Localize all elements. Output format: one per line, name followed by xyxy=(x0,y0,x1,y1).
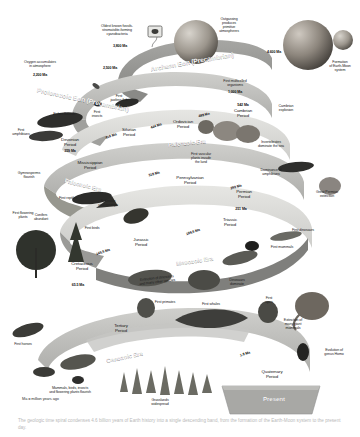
event-mammals-birds-insects: Mammals, birds, insects and flowering pl… xyxy=(30,386,110,394)
period-pennsylvanian: Pennsylvanian Period xyxy=(168,176,212,186)
period-devonian: Devonian Period xyxy=(54,138,86,148)
event-first-birds: First birds xyxy=(78,226,106,230)
period-triassic: Triassic Period xyxy=(212,218,248,228)
first-mammal-silhouette xyxy=(245,241,259,251)
event-first-vascular-plants: First vascular plants invade the land xyxy=(180,152,222,164)
present-label: Present xyxy=(244,396,304,403)
event-first-mammals: First mammals xyxy=(264,245,300,249)
period-permian: Permian Period xyxy=(226,190,262,200)
event-outgassing: Outgassing produces primitive atmosphere… xyxy=(210,17,248,33)
bird-silhouette xyxy=(59,351,97,372)
event-first-horses: First horses xyxy=(6,342,40,346)
event-first-jawless-fish: First jawless fish xyxy=(104,94,134,102)
age-2200ma: 2,200 Ma xyxy=(22,73,58,77)
event-earth-moon-formation: Formation of Earth-Moon system xyxy=(320,60,360,72)
event-first-insects: First insects xyxy=(86,110,108,118)
age-3800ma: 3,800 Ma xyxy=(98,44,142,48)
age-655ma: 65.5 Ma xyxy=(62,283,94,287)
age-359ma: 359 Ma xyxy=(56,149,84,153)
geologic-time-spiral-figure: Oldest known fossils- stromatolite-formi… xyxy=(0,0,360,437)
event-giant-mammal-extinction: Extinction of many giant mammals xyxy=(274,318,312,330)
event-genus-homo: Evolution of genus Homo xyxy=(314,348,354,356)
event-first-dinosaurs: First dinosaurs xyxy=(284,228,322,232)
age-542ma: 542 Ma xyxy=(228,103,258,107)
event-cambrian-explosion: Cambrian explosion xyxy=(268,104,304,112)
period-quaternary: Quaternary Period xyxy=(252,370,292,380)
human-runner-silhouette xyxy=(297,343,309,361)
event-invertebrates-dominate: Invertebrates dominate the sea xyxy=(248,140,294,148)
age-2500ma: 2,500 Ma xyxy=(92,66,128,70)
event-great-permian-extinction: Great Permian extinction xyxy=(306,190,348,198)
age-4600ma: 4,600 Ma xyxy=(256,50,292,54)
insect2-silhouette xyxy=(72,376,84,384)
grassland-cluster xyxy=(120,366,212,395)
period-mississippian: Mississippian Period xyxy=(68,161,112,171)
event-first-whales: First whales xyxy=(194,302,228,306)
mammoth-silhouette xyxy=(295,292,329,320)
event-first-reptiles: First reptiles xyxy=(52,196,84,200)
event-fishes-flourish: Fishes flourish xyxy=(42,112,86,116)
event-grasslands-widespread: Grasslands widespread xyxy=(140,398,180,406)
horse-silhouette xyxy=(11,320,45,340)
mammal-silhouette xyxy=(33,367,55,377)
event-first-primates: First primates xyxy=(148,300,182,304)
age-1000ma: 1,000 Ma xyxy=(214,90,256,94)
period-tertiary: Tertiary Period xyxy=(104,324,138,334)
period-jurassic: Jurassic Period xyxy=(124,238,158,248)
ammonite-silhouette xyxy=(198,120,214,134)
event-dinosaurs-dominate: Dinosaurs dominate xyxy=(222,278,252,286)
event-first-apes: First apes xyxy=(258,296,280,304)
event-first-amphibians: First amphibians xyxy=(6,128,36,136)
event-gymnosperms: Gymnosperms flourish xyxy=(10,171,48,179)
event-extensive-coal-swamps: Extensive coal swamps xyxy=(90,199,126,207)
period-cambrian: Cambrian Period xyxy=(226,109,260,119)
dinosaur-silhouette xyxy=(188,270,220,290)
event-oldest-fossils: Oldest known fossils- stromatolite-formi… xyxy=(88,24,146,36)
event-dominance-amphibians: Dominance of amphibians xyxy=(252,168,290,176)
figure-caption: The geologic time spiral condenses 4.6 b… xyxy=(18,418,344,431)
event-first-flowering-plants: First flowering plants xyxy=(6,211,40,219)
key-note: Ma = million years ago xyxy=(22,397,112,401)
moon xyxy=(333,30,353,50)
period-ordovician: Ordovician Period xyxy=(166,120,200,130)
event-first-multicelled: First multicelled organisms xyxy=(212,79,258,87)
age-251ma: 251 Ma xyxy=(226,207,256,211)
event-oxygen-accumulates: Oxygen accumulates in atmosphere xyxy=(12,60,68,68)
period-cretaceous: Cretaceous Period xyxy=(62,262,102,272)
